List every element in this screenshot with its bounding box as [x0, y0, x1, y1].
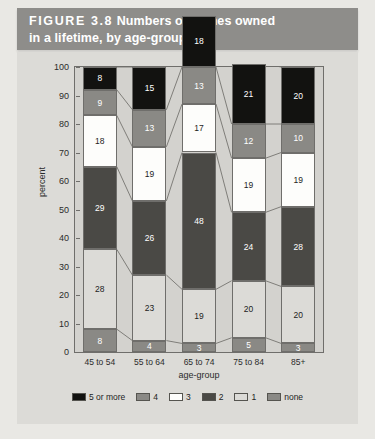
bar-segment[interactable]: 8 — [83, 67, 117, 90]
bar-segment[interactable]: 15 — [132, 67, 166, 110]
bar-segment[interactable]: 8 — [83, 329, 117, 352]
bar-65-to-74[interactable]: 31948171318 — [182, 67, 216, 352]
bar-segment[interactable]: 12 — [232, 124, 266, 158]
legend-label: 3 — [186, 392, 191, 402]
legend-swatch — [234, 393, 248, 401]
legend-label: 5 or more — [89, 392, 125, 402]
legend-label: 2 — [219, 392, 224, 402]
y-axis-tick: 10 — [59, 319, 75, 329]
bar-segment[interactable]: 13 — [132, 110, 166, 147]
bar-segment[interactable]: 3 — [281, 343, 315, 352]
x-axis-tick: 85+ — [291, 357, 305, 367]
bar-segment[interactable]: 48 — [182, 153, 216, 290]
legend-swatch — [72, 393, 86, 401]
y-axis-tick: 90 — [59, 91, 75, 101]
legend-item[interactable]: none — [267, 392, 303, 402]
legend-swatch — [169, 393, 183, 401]
bar-segment[interactable]: 21 — [232, 64, 266, 124]
stacked-bar-chart: percent 0102030405060708090100 828291898… — [74, 66, 324, 353]
y-axis-label: percent — [37, 167, 47, 197]
legend-swatch — [267, 393, 281, 401]
legend-item[interactable]: 2 — [202, 392, 224, 402]
bar-segment[interactable]: 4 — [132, 341, 166, 352]
legend-label: none — [284, 392, 303, 402]
bar-segment[interactable]: 13 — [182, 67, 216, 104]
x-axis-tick: 65 to 74 — [184, 357, 215, 367]
bar-segment[interactable]: 28 — [83, 249, 117, 329]
bar-segment[interactable]: 18 — [83, 115, 117, 166]
bar-segment[interactable]: 20 — [232, 281, 266, 338]
bar-85+[interactable]: 32028191020 — [281, 67, 315, 352]
bar-55-to-64[interactable]: 42326191315 — [132, 67, 166, 352]
bar-segment[interactable]: 19 — [232, 158, 266, 212]
bar-segment[interactable]: 20 — [281, 286, 315, 343]
chart-legend: 5 or more4321none — [17, 392, 358, 402]
y-axis-tick: 60 — [59, 176, 75, 186]
bar-segment[interactable]: 17 — [182, 104, 216, 152]
bar-segment[interactable]: 19 — [281, 153, 315, 207]
legend-label: 1 — [251, 392, 256, 402]
bar-segment[interactable]: 3 — [182, 343, 216, 352]
y-axis-tick: 40 — [59, 233, 75, 243]
y-axis-tick: 80 — [59, 119, 75, 129]
bar-segment[interactable]: 10 — [281, 124, 315, 153]
legend-item[interactable]: 1 — [234, 392, 256, 402]
x-axis-tick: 55 to 64 — [134, 357, 165, 367]
y-axis-tick: 0 — [64, 347, 75, 357]
legend-swatch — [136, 393, 150, 401]
bar-segment[interactable]: 5 — [232, 338, 266, 352]
figure-page: FIGURE 3.8 Numbers of homes owned in a l… — [0, 0, 375, 439]
y-axis-tick: 30 — [59, 262, 75, 272]
bar-segment[interactable]: 9 — [83, 90, 117, 116]
bar-segment[interactable]: 29 — [83, 167, 117, 250]
bar-segment[interactable]: 23 — [132, 275, 166, 341]
legend-item[interactable]: 3 — [169, 392, 191, 402]
bar-segment[interactable]: 24 — [232, 212, 266, 280]
bar-segment[interactable]: 26 — [132, 201, 166, 275]
bar-segment[interactable]: 19 — [182, 289, 216, 343]
legend-item[interactable]: 5 or more — [72, 392, 125, 402]
x-axis-label: age-group — [178, 370, 219, 380]
y-axis-tick: 50 — [59, 205, 75, 215]
bar-group: 82829189845 to 544232619131555 to 643194… — [75, 67, 323, 352]
figure-body: percent 0102030405060708090100 828291898… — [17, 52, 358, 424]
figure-number: FIGURE 3.8 — [29, 14, 113, 28]
y-axis-tick: 100 — [54, 62, 75, 72]
legend-item[interactable]: 4 — [136, 392, 158, 402]
x-axis-tick: 45 to 54 — [84, 357, 115, 367]
legend-label: 4 — [153, 392, 158, 402]
y-axis-tick: 70 — [59, 148, 75, 158]
x-axis-tick: 75 to 84 — [233, 357, 264, 367]
bar-segment[interactable]: 18 — [182, 16, 216, 67]
legend-swatch — [202, 393, 216, 401]
y-axis-tick: 20 — [59, 290, 75, 300]
bar-segment[interactable]: 28 — [281, 207, 315, 287]
bar-segment[interactable]: 20 — [281, 67, 315, 124]
bar-segment[interactable]: 19 — [132, 147, 166, 201]
bar-75-to-84[interactable]: 52024191221 — [232, 67, 266, 352]
bar-45-to-54[interactable]: 828291898 — [83, 67, 117, 352]
